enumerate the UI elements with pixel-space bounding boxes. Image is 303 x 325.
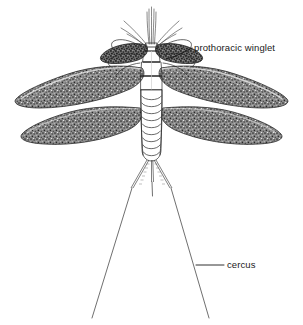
right-cercus <box>171 188 209 318</box>
label-cercus: cercus <box>196 259 256 270</box>
left-fore-wing <box>15 66 144 108</box>
insect-illustration: prothoracic winglet cercus <box>0 0 303 325</box>
left-cercus <box>92 188 132 318</box>
figure-container: prothoracic winglet cercus <box>0 0 303 325</box>
head-setae <box>147 7 156 44</box>
cerci-group <box>92 160 209 318</box>
right-fore-wing <box>159 66 288 108</box>
abdomen-group <box>141 90 162 161</box>
left-hind-wing <box>21 107 142 145</box>
cerci-base <box>131 160 172 188</box>
median-caudal-filament <box>152 182 153 196</box>
right-hind-wing <box>161 107 282 145</box>
label-text-prothoracic-winglet: prothoracic winglet <box>194 42 275 53</box>
label-text-cercus: cercus <box>227 259 256 270</box>
